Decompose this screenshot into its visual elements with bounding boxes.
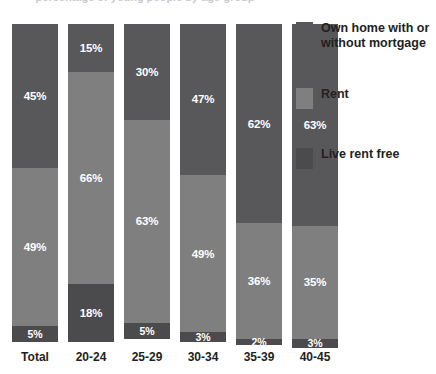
- bar-segment-value: 15%: [80, 42, 102, 54]
- bar-segment-value: 30%: [136, 66, 158, 78]
- bar-segment: 3%: [292, 339, 338, 349]
- bar-segment-value: 45%: [24, 90, 46, 102]
- legend-label: Rent: [321, 87, 436, 102]
- bar-segment: 18%: [68, 284, 114, 342]
- bar-segment-value: 36%: [248, 275, 270, 287]
- bar-segment-value: 66%: [80, 172, 102, 184]
- bar-segment: 5%: [12, 326, 58, 342]
- category-axis: Total20-2425-2930-3435-3940-45: [0, 349, 290, 374]
- bar-group-25-29: 30%63%5%: [124, 24, 170, 345]
- bar-segment: 45%: [12, 24, 58, 168]
- bar-segment: 36%: [236, 223, 282, 339]
- legend-label: Own home with or without mortgage: [321, 21, 436, 50]
- bar-segment-value: 35%: [304, 276, 326, 288]
- bar-segment-value: 62%: [248, 118, 270, 130]
- bar-segment: 63%: [124, 120, 170, 322]
- legend-label: Live rent free: [321, 147, 436, 162]
- chart-title-remnant: percentage of young people by age group: [0, 0, 290, 12]
- bar-stack: 30%63%5%: [124, 24, 170, 345]
- bar-segment: 49%: [180, 175, 226, 332]
- bar-segment: 49%: [12, 168, 58, 325]
- bar-group-total: 45%49%5%: [12, 24, 58, 345]
- bar-segment-value: 5%: [28, 328, 43, 340]
- legend-swatch-icon: [296, 22, 313, 43]
- bar-segment: 30%: [124, 24, 170, 120]
- bar-stack: 62%36%2%: [236, 24, 282, 345]
- legend-swatch-icon: [296, 88, 313, 109]
- bar-group-35-39: 62%36%2%: [236, 24, 282, 345]
- bar-segment: 62%: [236, 24, 282, 223]
- chart-title-text: percentage of young people by age group: [0, 0, 290, 3]
- bar-segment-value: 3%: [196, 331, 211, 343]
- bar-segment: 35%: [292, 226, 338, 338]
- bar-segment-value: 2%: [252, 336, 267, 348]
- bar-segment: 3%: [180, 332, 226, 342]
- bar-segment-value: 18%: [80, 307, 102, 319]
- category-label-25-29: 25-29: [124, 349, 170, 365]
- plot-area: 45%49%5%15%66%18%30%63%5%47%49%3%62%36%2…: [0, 24, 290, 345]
- bar-segment-value: 49%: [24, 241, 46, 253]
- category-label-total: Total: [12, 349, 58, 365]
- bar-segment-value: 3%: [308, 337, 323, 349]
- category-label-20-24: 20-24: [68, 349, 114, 365]
- bar-segment: 66%: [68, 72, 114, 284]
- bar-segment-value: 49%: [192, 248, 214, 260]
- bar-group-20-24: 15%66%18%: [68, 24, 114, 345]
- bar-segment: 15%: [68, 24, 114, 72]
- bar-segment: 2%: [236, 339, 282, 345]
- bar-stack: 47%49%3%: [180, 24, 226, 345]
- legend-swatch-icon: [296, 148, 313, 169]
- category-label-30-34: 30-34: [180, 349, 226, 365]
- bar-segment: 47%: [180, 24, 226, 175]
- bar-segment-value: 5%: [140, 325, 155, 337]
- bar-stack: 15%66%18%: [68, 24, 114, 345]
- category-label-35-39: 35-39: [236, 349, 282, 365]
- category-label-40-45: 40-45: [292, 349, 338, 365]
- bar-segment-value: 47%: [192, 93, 214, 105]
- bar-stack: 45%49%5%: [12, 24, 58, 345]
- chart-legend: Own home with or without mortgageRentLiv…: [296, 22, 436, 182]
- bar-group-30-34: 47%49%3%: [180, 24, 226, 345]
- stacked-bar-chart: percentage of young people by age group …: [0, 0, 436, 374]
- bar-segment-value: 63%: [136, 215, 158, 227]
- bar-segment: 5%: [124, 323, 170, 339]
